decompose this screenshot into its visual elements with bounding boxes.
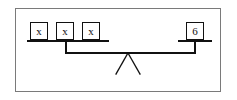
weight-box-x-2[interactable]: x <box>56 22 74 40</box>
diagram-frame <box>15 8 221 92</box>
right-pan-post <box>194 40 196 53</box>
weight-box-6[interactable]: 6 <box>186 22 204 40</box>
fulcrum-icon <box>108 52 148 76</box>
weight-label: x <box>62 25 68 36</box>
weight-label: 6 <box>192 25 198 36</box>
weight-label: x <box>88 25 94 36</box>
right-pan-platform <box>178 40 212 42</box>
weight-label: x <box>36 25 42 36</box>
diagram-canvas: x x x 6 <box>0 0 237 100</box>
weight-box-x-1[interactable]: x <box>30 22 48 40</box>
weight-box-x-3[interactable]: x <box>82 22 100 40</box>
left-pan-platform <box>27 40 109 42</box>
